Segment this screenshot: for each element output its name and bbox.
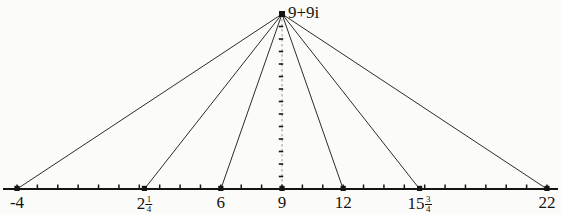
- axis-point-marker[interactable]: [417, 186, 422, 191]
- axis-point-marker[interactable]: [218, 186, 223, 191]
- axis-point-marker[interactable]: [14, 186, 19, 191]
- tick-label-whole: 15: [408, 195, 425, 212]
- tick-label-text: 22: [539, 193, 556, 212]
- axis-tick-label: 214: [137, 194, 153, 213]
- ray-line: [282, 14, 420, 189]
- axis-tick-label: 22: [539, 194, 556, 211]
- axis-point-marker[interactable]: [142, 186, 147, 191]
- fraction-denominator: 4: [146, 204, 153, 214]
- ray-line: [17, 14, 282, 189]
- tick-label-text: 9: [278, 193, 287, 212]
- axis-tick-label: 12: [335, 194, 352, 211]
- apex-marker[interactable]: [279, 11, 285, 17]
- tick-label-whole: 2: [137, 195, 146, 212]
- axis-tick-label: 6: [217, 194, 226, 211]
- ray-line: [282, 14, 343, 189]
- construction-diagram: [0, 0, 561, 214]
- tick-label-text: -4: [10, 193, 24, 212]
- axis-point-marker[interactable]: [544, 186, 549, 191]
- axis-tick-label: 1534: [408, 194, 432, 213]
- axis-tick-label: -4: [10, 194, 24, 211]
- tick-label-text: 12: [335, 193, 352, 212]
- tick-label-text: 6: [217, 193, 226, 212]
- tick-label-fraction: 14: [146, 195, 153, 214]
- ray-line: [221, 14, 282, 189]
- axis-point-marker[interactable]: [341, 186, 346, 191]
- ray-line: [282, 14, 547, 189]
- tick-label-fraction: 34: [425, 195, 432, 214]
- figure-canvas: 9+9i -42146912153422: [0, 0, 561, 214]
- axis-point-marker[interactable]: [279, 186, 284, 191]
- fraction-denominator: 4: [425, 204, 432, 214]
- axis-tick-label: 9: [278, 194, 287, 211]
- apex-label: 9+9i: [288, 4, 319, 21]
- ray-line: [144, 14, 282, 189]
- fraction-numerator: 1: [146, 195, 153, 204]
- vertical-center-line: [279, 14, 283, 189]
- apex-point-marker: [279, 11, 285, 17]
- fraction-numerator: 3: [425, 195, 432, 204]
